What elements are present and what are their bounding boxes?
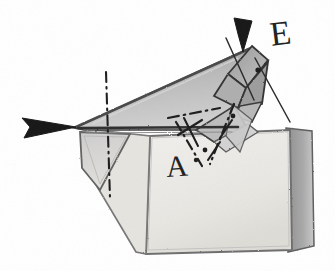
point-label-A: A <box>165 150 189 181</box>
origami-diagram-canvas: E A <box>0 0 335 271</box>
point-label-E: E <box>268 15 293 51</box>
